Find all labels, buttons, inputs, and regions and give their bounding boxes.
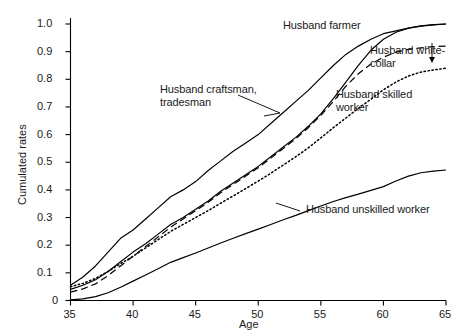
x-axis-label: Age (239, 318, 259, 330)
y-tick-label: 0.6 (37, 128, 52, 140)
y-tick-label: 1.0 (37, 17, 52, 29)
x-tick-label: 65 (439, 308, 451, 320)
y-tick-label: 0.3 (37, 211, 52, 223)
annotation-husband-white-collar: Husband white- collar (370, 44, 445, 69)
y-axis-label: Cumulated rates (16, 124, 28, 205)
x-tick-label: 60 (376, 308, 388, 320)
y-tick-label: 0.5 (37, 155, 52, 167)
x-tick-label: 40 (126, 308, 138, 320)
y-tick-label: 0.7 (37, 100, 52, 112)
series-line-husband-unskilled-worker (71, 170, 447, 300)
annotation-husband-craftsman-tradesman: Husband craftsman, tradesman (160, 83, 257, 108)
y-tick-label: 0.4 (37, 183, 52, 195)
annotation-husband-unskilled-worker: Husband unskilled worker (306, 203, 430, 216)
y-tick-marks (66, 24, 71, 301)
leader-line-unskilled (276, 203, 300, 211)
x-tick-marks (71, 301, 447, 306)
y-tick-label: 0.9 (37, 45, 52, 57)
x-tick-label: 35 (64, 308, 76, 320)
x-tick-label: 45 (189, 308, 201, 320)
annotation-husband-skilled-worker: Husband skilled worker (336, 88, 412, 113)
x-tick-label: 55 (314, 308, 326, 320)
y-tick-label: 0.1 (37, 266, 52, 278)
series-line-husband-white-collar (71, 46, 447, 292)
y-tick-label: 0 (52, 294, 58, 306)
annotation-husband-farmer: Husband farmer (283, 19, 360, 32)
x-tick-label: 50 (251, 308, 263, 320)
y-tick-label: 0.2 (37, 238, 52, 250)
y-tick-label: 0.8 (37, 72, 52, 84)
